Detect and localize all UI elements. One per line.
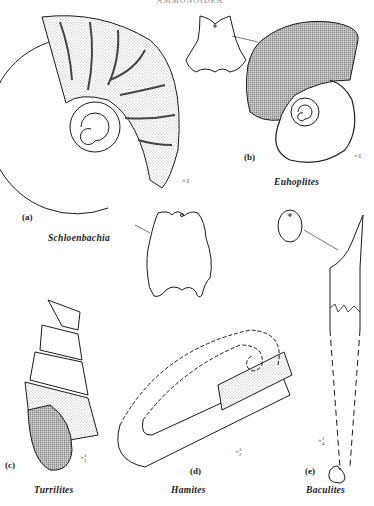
- schloenbachia-drawing: [0, 16, 179, 233]
- turrilites-drawing: [25, 300, 98, 470]
- scale-e: ×14: [318, 436, 324, 446]
- panel-label-b: (b): [244, 152, 255, 162]
- scale-d-den: 2: [239, 452, 242, 457]
- hamites-drawing: [118, 330, 292, 467]
- scale-c-den: 2: [84, 458, 87, 463]
- panel-label-c: (c): [5, 460, 15, 470]
- euhoplites-cross-section: [186, 16, 246, 72]
- panel-label-a: (a): [22, 212, 33, 222]
- genus-name-hamites: Hamites: [171, 485, 206, 495]
- genus-name-schloenbachia: Schloenbachia: [48, 233, 110, 243]
- genus-name-baculites: Baculites: [306, 485, 345, 495]
- euhoplites-drawing: [232, 21, 358, 162]
- scale-c: ×12: [80, 453, 86, 463]
- genus-name-turrilites: Turrilites: [34, 485, 74, 495]
- scale-e-den: 4: [322, 441, 325, 446]
- scale-b: ×1: [354, 152, 361, 160]
- schloenbachia-cross-section: [147, 212, 211, 297]
- panel-label-e: (e): [305, 466, 315, 476]
- genus-name-euhoplites: Euhoplites: [274, 177, 319, 187]
- scale-a: ×1: [182, 177, 189, 185]
- scale-d: ×12: [235, 447, 241, 457]
- ammonite-figure: [0, 0, 374, 506]
- panel-label-d: (d): [190, 466, 201, 476]
